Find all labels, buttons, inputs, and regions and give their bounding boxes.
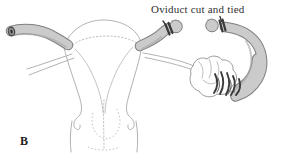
panel-label: B bbox=[20, 134, 28, 149]
left-oviduct bbox=[11, 29, 68, 47]
figure-panel: Oviduct cut and tied B bbox=[0, 0, 282, 165]
oviduct-annotation-label: Oviduct cut and tied bbox=[151, 3, 245, 15]
right-oviduct-proximal-stump bbox=[140, 28, 169, 49]
ovarian-ligament bbox=[143, 53, 194, 70]
right-oviduct-distal-knob bbox=[206, 19, 219, 32]
tubal-ligation-illustration bbox=[0, 0, 282, 165]
uterus bbox=[64, 20, 142, 150]
